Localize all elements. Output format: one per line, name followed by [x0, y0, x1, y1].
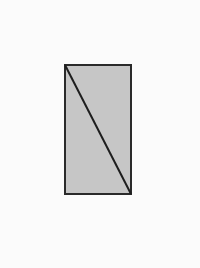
rectangle-diagram: [0, 0, 200, 268]
